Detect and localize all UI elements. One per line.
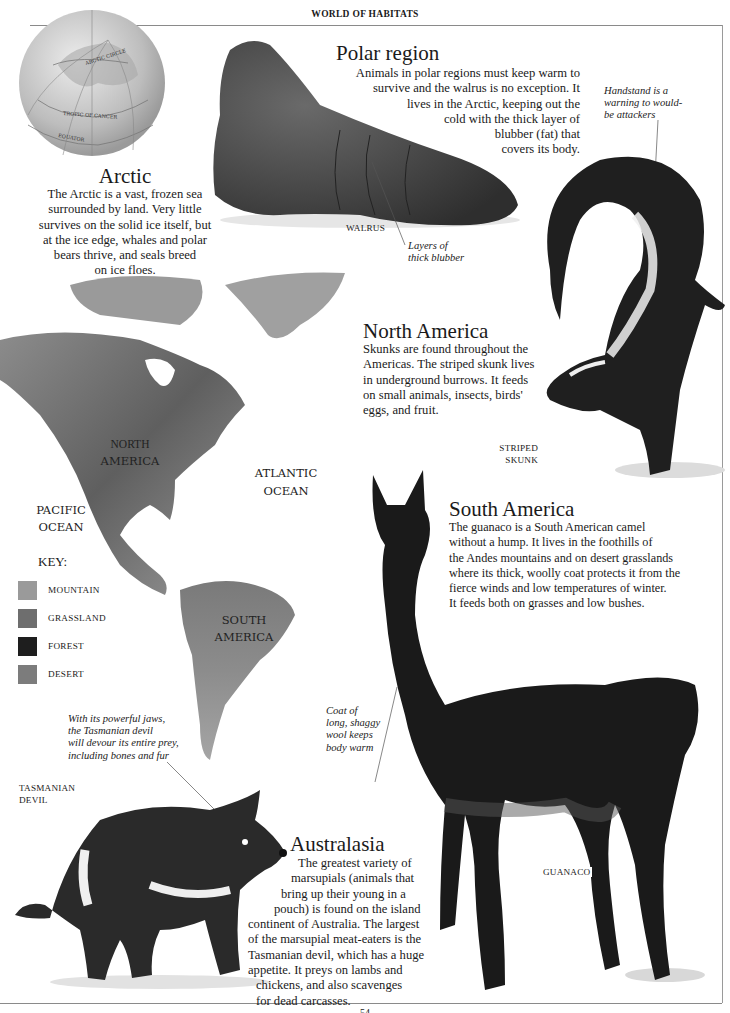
key-label: DESERT: [48, 669, 84, 679]
text-line: Animals in polar regions must keep warm …: [336, 66, 580, 81]
text-line: of the marsupial meat-eaters is the: [248, 932, 473, 947]
note-line: With its powerful jaws,: [68, 713, 179, 725]
text-line: Skunks are found throughout the: [363, 342, 563, 357]
north-america-text: Skunks are found throughout the Americas…: [363, 342, 563, 418]
map-label-north-america-2: AMERICA: [100, 454, 160, 468]
text-line: marsupials (animals that: [248, 871, 473, 886]
caption-text: GUANACO: [541, 867, 592, 877]
australasia-title: Australasia: [290, 833, 384, 855]
map-label-atlantic-2: OCEAN: [264, 484, 309, 498]
text-line: Americas. The striped skunk lives: [363, 357, 563, 372]
north-america-section: North America Skunks are found throughou…: [363, 320, 563, 418]
americas-map: NORTH AMERICA ATLANTIC OCEAN PACIFIC OCE…: [0, 265, 360, 765]
key-label: FOREST: [48, 641, 84, 651]
map-label-north-america-1: NORTH: [111, 438, 150, 450]
text-line: blubber (fat) that: [336, 127, 580, 142]
key-label: GRASSLAND: [48, 613, 106, 623]
polar-region-title: Polar region: [336, 42, 439, 64]
guanaco-leader-line: [372, 685, 402, 785]
note-line: the Tasmanian devil: [68, 725, 179, 737]
text-line: for dead carcasses.: [248, 994, 473, 1009]
walrus-annotation: Layers of thick blubber: [408, 240, 464, 264]
map-label-atlantic-1: ATLANTIC: [254, 466, 318, 480]
text-line: appetite. It preys on lambs and: [248, 963, 473, 978]
note-line: be attackers: [604, 109, 682, 121]
text-line: at the ice edge, whales and polar: [0, 233, 250, 248]
text-line: eggs, and fruit.: [363, 403, 563, 418]
key-item-forest: FOREST: [18, 636, 84, 656]
text-line: lives in the Arctic, keeping out the: [336, 97, 580, 112]
australasia-text: The greatest variety of marsupials (anim…: [248, 856, 473, 1009]
skunk-annotation: Handstand is a warning to would- be atta…: [604, 85, 682, 122]
map-label-pacific-2: OCEAN: [39, 520, 84, 534]
text-line: survive and the walrus is no exception. …: [336, 81, 580, 96]
map-key-title: KEY:: [38, 554, 67, 570]
text-line: chickens, and also scavenges: [248, 978, 473, 993]
text-line: The greatest variety of: [248, 856, 473, 871]
note-line: thick blubber: [408, 252, 464, 264]
globe-illustration: ARCTIC CIRCLE TROPIC OF CANCER EQUATOR: [18, 5, 168, 160]
map-label-pacific-1: PACIFIC: [36, 503, 86, 517]
key-item-mountain: MOUNTAIN: [18, 580, 100, 600]
caption-line: STRIPED: [480, 442, 538, 454]
text-line: continent of Australia. The largest: [248, 917, 473, 932]
skunk-caption: STRIPED SKUNK: [480, 442, 538, 466]
text-line: in underground burrows. It feeds: [363, 373, 563, 388]
forest-swatch: [18, 637, 37, 656]
note-line: will devour its entire prey,: [68, 737, 179, 749]
note-line: Handstand is a: [604, 85, 682, 97]
text-line: bears thrive, and seals breed: [0, 248, 250, 263]
desert-swatch: [18, 665, 37, 684]
text-line: on small animals, insects, birds': [363, 388, 563, 403]
note-line: Layers of: [408, 240, 464, 252]
key-label: MOUNTAIN: [48, 585, 100, 595]
guanaco-caption: GUANACO: [541, 866, 592, 878]
text-line: pouch) is found on the island: [248, 902, 473, 917]
mountain-swatch: [18, 581, 37, 600]
map-label-south-america-2: AMERICA: [214, 630, 274, 644]
north-america-title: North America: [363, 320, 563, 342]
key-item-desert: DESERT: [18, 664, 84, 684]
text-line: Tasmanian devil, which has a huge: [248, 948, 473, 963]
text-line: cold with the thick layer of: [336, 112, 580, 127]
devil-annotation: With its powerful jaws, the Tasmanian de…: [68, 713, 179, 762]
polar-region-text: Animals in polar regions must keep warm …: [336, 66, 580, 158]
note-line: warning to would-: [604, 97, 682, 109]
map-label-south-america-1: SOUTH: [222, 613, 267, 627]
grassland-swatch: [18, 609, 37, 628]
walrus-leader-line: [370, 160, 410, 250]
key-item-grassland: GRASSLAND: [18, 608, 106, 628]
text-line: bring up their young in a: [248, 887, 473, 902]
note-line: including bones and fur: [68, 750, 179, 762]
